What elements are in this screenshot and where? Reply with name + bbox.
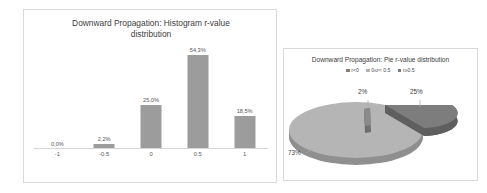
histogram-panel: Downward Propagation: Histogram r-value … [23,9,277,183]
legend-swatch-icon [366,69,370,73]
histogram-bar-group: 0,0% [34,44,81,148]
pie-chart: 2% 25% 73% [284,75,477,180]
histogram-title-line1: Downward Propagation: Histogram r-value [72,18,230,28]
pie-svg [284,75,477,180]
histogram-tick-label: 0.5 [174,151,221,157]
histogram-bar-group: 2,2% [81,44,128,148]
histogram-plot-area: 0,0% 2,2% 25,0% 54,3% 18,5% [34,44,268,148]
histogram-bar-group: 25,0% [128,44,175,148]
histogram-bar [187,55,208,148]
histogram-bar [140,105,161,148]
histogram-title-line2: distribution [131,29,172,39]
histogram-tick-label: 1 [221,151,268,157]
histogram-bar-label: 54,3% [190,47,206,53]
histogram-bar-label: 25,0% [143,97,159,103]
pie-label-small: 2% [358,88,367,95]
pie-title: Downward Propagation: Pie r-value distri… [288,56,473,63]
histogram-tick-label: -0.5 [81,151,128,157]
pie-panel: Downward Propagation: Pie r-value distri… [283,48,478,181]
histogram-tick-label: 0 [128,151,175,157]
histogram-x-axis-ticks: -1 -0.5 0 0.5 1 [34,151,268,165]
pie-legend-item: r<0 [346,67,359,73]
legend-swatch-icon [398,69,402,73]
pie-legend-label: r<0 [351,67,359,73]
pie-legend-item: 0≤r< 0.5 [366,67,390,73]
histogram-tick-label: -1 [34,151,81,157]
pie-label-big: 73% [288,149,301,156]
histogram-bar-label: 0,0% [51,141,64,147]
pie-legend-item: r≥0.5 [398,67,415,73]
histogram-bar [234,116,255,148]
pie-legend-label: 0≤r< 0.5 [371,67,390,73]
pie-slice-small [364,108,371,133]
histogram-bar-label: 2,2% [98,136,111,142]
pie-label-mid: 25% [410,88,423,95]
histogram-bar-group: 54,3% [174,44,221,148]
legend-swatch-icon [346,69,350,73]
pie-legend: r<0 0≤r< 0.5 r≥0.5 [288,67,473,73]
histogram-bar-label: 18,5% [237,108,253,114]
pie-legend-label: r≥0.5 [403,67,415,73]
histogram-bar-group: 18,5% [221,44,268,148]
histogram-x-axis-line [34,148,268,149]
histogram-title: Downward Propagation: Histogram r-value … [38,18,264,40]
